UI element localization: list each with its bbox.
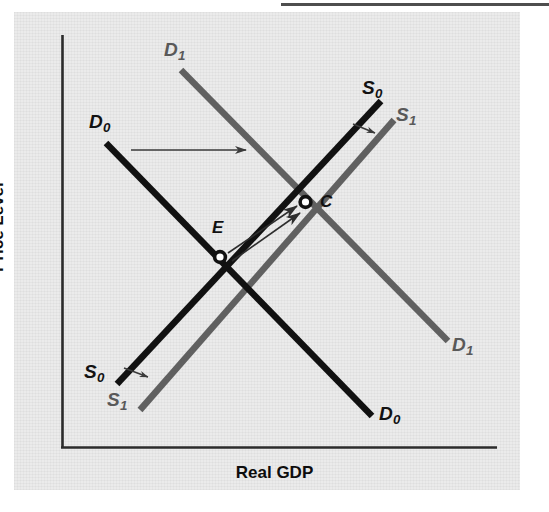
curve-label-s0-bottom-base: S — [84, 361, 97, 382]
curve-label-d1-bottom: D1 — [452, 335, 473, 354]
equilibrium-point-c — [298, 195, 312, 209]
curve-label-d0-bottom-base: D — [379, 403, 393, 424]
curve-d0-line — [106, 143, 372, 416]
curve-label-d0-bottom: D0 — [379, 404, 400, 423]
equilibrium-point-e — [213, 250, 227, 264]
curve-s1-line — [140, 120, 394, 410]
curve-label-s1-bottom-base: S — [107, 389, 120, 410]
x-axis-title: Real GDP — [0, 464, 549, 481]
curve-label-d0-top: D0 — [89, 112, 110, 131]
point-label-c: C — [320, 193, 332, 210]
y-axis-title: Price Level — [0, 232, 98, 272]
curve-label-d1-top-base: D — [164, 39, 178, 60]
curve-label-d0-bottom-sub: 0 — [393, 412, 400, 427]
curve-label-s1-bottom: S1 — [107, 390, 127, 409]
curve-label-s1-top-sub: 1 — [409, 113, 416, 128]
curve-label-s0-bottom: S0 — [84, 362, 104, 381]
curve-s1 — [140, 120, 394, 410]
curve-label-s1-bottom-sub: 1 — [120, 398, 127, 413]
curve-label-d1-top: D1 — [164, 40, 185, 59]
curve-label-d0-top-sub: 0 — [103, 120, 110, 135]
axis-group — [61, 35, 497, 448]
curve-label-d1-bottom-sub: 1 — [466, 343, 473, 358]
curve-d0 — [106, 143, 372, 416]
curve-label-s0-top-base: S — [362, 77, 375, 98]
curve-label-d1-top-sub: 1 — [178, 48, 185, 63]
point-label-e: E — [212, 219, 223, 236]
curve-label-s1-top: S1 — [396, 105, 416, 124]
curve-label-s0-bottom-sub: 0 — [97, 370, 104, 385]
figure-root: D1 D0 S0 S1 S0 S1 D1 D0 E C Price Level … — [0, 0, 549, 512]
curve-label-s1-top-base: S — [396, 104, 409, 125]
curve-label-d0-top-base: D — [89, 111, 103, 132]
curve-label-s0-top-sub: 0 — [375, 86, 382, 101]
curve-label-s0-top: S0 — [362, 78, 382, 97]
curve-label-d1-bottom-base: D — [452, 334, 466, 355]
